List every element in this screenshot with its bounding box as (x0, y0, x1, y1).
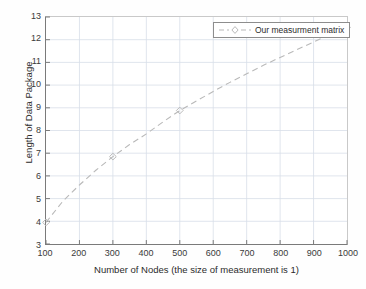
x-axis-tick-label: 500 (172, 249, 187, 258)
x-axis-tick-label: 600 (206, 249, 221, 258)
x-axis-label: Number of Nodes (the size of measurement… (45, 264, 348, 275)
x-axis-tick-labels: 1002003004005006007008009001000 (45, 249, 348, 261)
x-axis-tick-label: 700 (239, 249, 254, 258)
chart-legend[interactable]: Our measurment matrix (213, 22, 350, 38)
y-axis-tick-label: 13 (31, 12, 41, 21)
y-axis-tick-label: 6 (36, 172, 41, 181)
x-axis-tick-label: 300 (105, 249, 120, 258)
x-axis-tick-label: 1000 (338, 249, 358, 258)
data-point-marker (176, 107, 183, 114)
data-series-layer (46, 17, 347, 244)
y-axis-tick-labels: 345678910111213 (0, 16, 41, 245)
legend-entry-label: Our measurment matrix (255, 26, 344, 35)
y-axis-label: Length of Data Package (23, 33, 34, 193)
y-axis-tick-label: 4 (36, 218, 41, 227)
y-axis-tick-label: 9 (36, 103, 41, 112)
legend-line-marker-icon (218, 25, 252, 35)
plot-area (45, 16, 348, 245)
chart-figure: 345678910111213 100200300400500600700800… (0, 0, 366, 289)
y-axis-tick-label: 5 (36, 195, 41, 204)
series-line (46, 27, 347, 222)
y-axis-tick-label: 8 (36, 126, 41, 135)
x-axis-tick-label: 800 (273, 249, 288, 258)
x-axis-tick-label: 100 (37, 249, 52, 258)
x-axis-tick-label: 900 (307, 249, 322, 258)
x-axis-tick-label: 400 (138, 249, 153, 258)
y-axis-tick-label: 7 (36, 149, 41, 158)
x-axis-tick-label: 200 (71, 249, 86, 258)
